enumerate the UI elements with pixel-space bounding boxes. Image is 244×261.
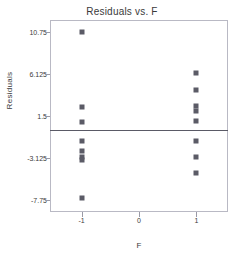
x-tick-mark — [139, 212, 140, 217]
data-point — [79, 119, 84, 124]
data-point — [194, 139, 199, 144]
x-tick-mark — [196, 212, 197, 217]
x-tick-label: 1 — [194, 217, 198, 224]
y-tick-mark — [45, 74, 50, 75]
data-point — [79, 158, 84, 163]
y-tick-mark — [45, 200, 50, 201]
zero-reference-line — [50, 130, 228, 132]
y-tick-mark — [45, 32, 50, 33]
x-axis-title: F — [50, 241, 228, 250]
x-tick-mark — [82, 212, 83, 217]
data-point — [194, 87, 199, 92]
data-point — [194, 154, 199, 159]
data-point — [79, 104, 84, 109]
data-point — [194, 71, 199, 76]
data-point — [79, 30, 84, 35]
data-point — [79, 149, 84, 154]
data-point — [194, 118, 199, 123]
y-tick-mark — [45, 116, 50, 117]
data-point — [79, 196, 84, 201]
residual-plot: Residuals vs. F Residuals 10.756.1251.5-… — [0, 0, 244, 261]
data-point — [194, 171, 199, 176]
y-tick-mark — [45, 158, 50, 159]
data-point — [194, 108, 199, 113]
x-tick-label: 0 — [137, 217, 141, 224]
x-tick-label: -1 — [78, 217, 84, 224]
data-point — [79, 139, 84, 144]
y-axis-ticks: 10.756.1251.5-3.125-7.75 — [0, 0, 47, 261]
plot-area — [50, 20, 228, 212]
